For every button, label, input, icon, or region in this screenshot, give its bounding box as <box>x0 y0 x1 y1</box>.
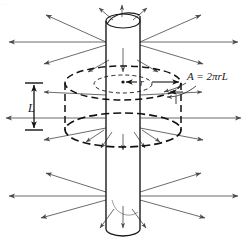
field-line <box>140 45 203 64</box>
label-L: L <box>27 101 35 115</box>
wire-bottom-inner-contour <box>112 200 138 215</box>
dimension-r <box>121 80 179 83</box>
field-line <box>140 200 205 218</box>
field-line-group-bottom-cap <box>100 206 146 228</box>
field-line <box>41 200 106 218</box>
wire-top-cap-back <box>106 14 140 21</box>
area-leader-upper <box>164 83 186 92</box>
wire-bottom-cap <box>106 229 140 236</box>
label-r: r <box>140 77 144 88</box>
field-line <box>44 128 106 140</box>
field-line <box>140 128 203 140</box>
charged-wire <box>106 13 140 236</box>
gauss-law-figure: .... <box>0 0 247 239</box>
field-line-group-upper-left <box>9 15 106 64</box>
field-line <box>140 173 201 192</box>
electric-field-lines <box>6 5 241 228</box>
field-line <box>100 209 114 228</box>
field-line <box>44 45 106 64</box>
field-line <box>140 15 201 42</box>
field-line-group-lower-right <box>140 173 238 218</box>
label-area: A = 2πrL <box>186 70 228 82</box>
field-line <box>142 130 160 142</box>
field-line-group-mid-upper <box>88 48 158 72</box>
field-line-group-lower-left <box>9 173 106 218</box>
field-line <box>132 209 146 228</box>
field-line <box>46 173 106 192</box>
figure-canvas: L r A = 2πrL <box>0 0 247 239</box>
field-line-group-upper-right <box>140 15 238 64</box>
wire-top-cap-front <box>106 21 140 28</box>
field-line <box>99 8 113 20</box>
field-line <box>46 15 106 42</box>
field-line-group-middle <box>6 92 241 140</box>
dimension-r-origin-dot <box>121 80 124 83</box>
